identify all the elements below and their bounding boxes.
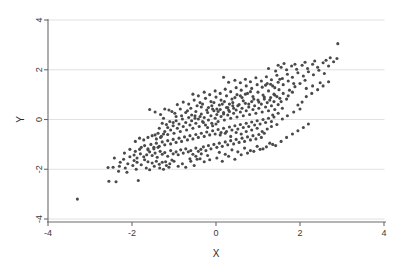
data-point [219,99,222,102]
axis-ticks-group [44,20,384,226]
data-point [182,152,185,155]
data-point [175,115,178,118]
data-point [186,138,189,141]
data-point [239,81,242,84]
data-point [172,160,175,163]
axes-group [47,19,386,222]
data-point [264,106,267,109]
data-point [270,125,273,128]
data-point [229,139,232,142]
data-point [235,86,238,89]
data-point [166,139,169,142]
data-point [177,165,180,168]
data-point [230,148,233,151]
data-point [229,117,232,120]
data-point [253,104,256,107]
data-point [293,85,296,88]
data-point [203,91,206,94]
data-point [256,83,259,86]
data-point [135,161,138,164]
data-point [207,118,210,121]
data-point [133,159,136,162]
data-point [264,84,267,87]
data-point [305,95,308,98]
data-point [206,154,209,157]
y-tick-label: 2 [34,67,44,72]
data-point [176,103,179,106]
data-point [155,142,158,145]
data-point [298,108,301,111]
data-point [156,156,159,159]
data-point [261,94,264,97]
data-point [134,150,137,153]
data-point [261,110,264,113]
data-point [223,100,226,103]
data-point [175,150,178,153]
data-point [233,79,236,82]
data-point [172,152,175,155]
data-point [227,81,230,84]
data-point [185,128,188,131]
data-point [122,158,125,161]
data-point [158,166,161,169]
data-point [244,93,247,96]
data-point [290,64,293,67]
data-point [271,143,274,146]
data-point [124,166,127,169]
data-point [232,112,235,115]
data-point [233,124,236,127]
data-point [273,108,276,111]
data-point [198,115,201,118]
data-point [226,143,229,146]
data-point [233,158,236,161]
data-point [117,170,120,173]
data-point [280,66,283,69]
data-point [205,130,208,133]
data-point [219,92,222,95]
data-point [188,134,191,137]
data-point [266,127,269,130]
data-point [267,67,270,70]
data-point [189,149,192,152]
x-tick-label: 2 [297,228,302,238]
data-point [306,67,309,70]
data-point [221,103,224,106]
data-point [217,128,220,131]
data-point [286,114,289,117]
data-point [257,101,260,104]
data-point [175,141,178,144]
data-point [242,126,245,129]
data-point [177,137,180,140]
data-point [240,107,243,110]
data-point [286,73,289,76]
data-point [128,155,131,158]
data-point [134,140,137,143]
data-point [296,104,299,107]
data-point [227,155,230,158]
data-point [215,157,218,160]
data-point [259,148,262,151]
data-point [212,101,215,104]
data-point [173,112,176,115]
data-point [210,104,213,107]
data-point [143,144,146,147]
data-point [298,82,301,85]
data-point [247,125,250,128]
data-point [159,136,162,139]
data-point [285,136,288,139]
data-point [257,107,260,110]
data-point [260,136,263,139]
data-point [179,148,182,151]
scatter-plot-figure: -4-2024-4-2024 YX [0,0,406,270]
data-point [215,113,218,116]
data-point [211,108,214,111]
data-point [235,115,238,118]
data-point [181,162,184,165]
data-point [163,151,166,154]
data-point [165,123,168,126]
data-point [291,91,294,94]
data-point [274,144,277,147]
data-point [112,166,115,169]
data-point [270,104,273,107]
data-point [143,158,146,161]
